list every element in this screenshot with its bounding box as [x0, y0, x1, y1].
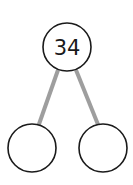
right-connector-line: [76, 70, 99, 127]
left-part-node: [8, 124, 56, 172]
right-part-circle: [79, 124, 127, 172]
whole-value: 34: [54, 36, 81, 60]
left-connector-line: [38, 70, 58, 127]
left-part-circle: [8, 124, 56, 172]
whole-node: 34: [43, 23, 91, 71]
right-part-node: [79, 124, 127, 172]
number-bond-diagram: 34: [0, 0, 133, 185]
